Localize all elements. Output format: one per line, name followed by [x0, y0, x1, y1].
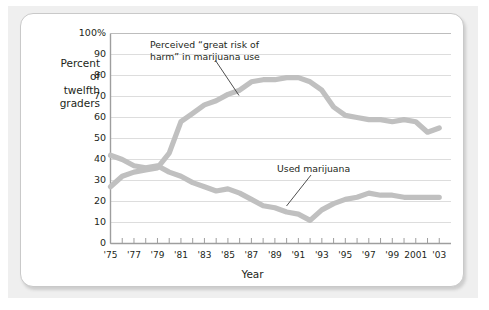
- y-tick-label: 0: [62, 237, 106, 248]
- y-tick-label: 50: [62, 132, 106, 143]
- y-tick-label: 40: [62, 153, 106, 164]
- series-line-perceived-risk: [111, 78, 440, 187]
- annotation-perceived-risk: Perceived “great risk of harm” in mariju…: [150, 39, 260, 62]
- y-tick-label: 100%: [62, 27, 106, 38]
- x-tick-label: '03: [422, 250, 456, 260]
- y-tick-label: 80: [62, 69, 106, 80]
- series-line-used-marijuana: [111, 155, 440, 220]
- annotation-used-marijuana: Used marijuana: [277, 163, 350, 175]
- x-axis-title: Year: [0, 268, 489, 280]
- leader-line-perceived-risk: [216, 61, 240, 96]
- y-tick-label: 70: [62, 90, 106, 101]
- y-tick-label: 20: [62, 195, 106, 206]
- y-tick-label: 10: [62, 216, 106, 227]
- y-axis-title: Percent of twelfth graders: [28, 57, 100, 111]
- y-tick-label: 60: [62, 111, 106, 122]
- y-tick-label: 30: [62, 174, 106, 185]
- figure-root: Percent of twelfth graders Year Perceive…: [0, 0, 489, 310]
- x-axis-title-text: Year: [241, 268, 263, 280]
- y-tick-label: 90: [62, 48, 106, 59]
